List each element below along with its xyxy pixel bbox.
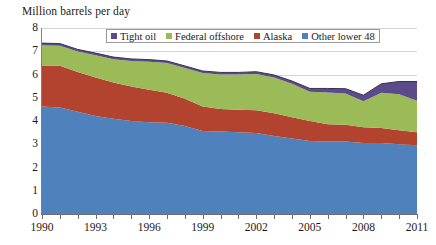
x-tick bbox=[185, 215, 186, 219]
y-tick-label: 8 bbox=[8, 22, 38, 34]
x-tick bbox=[381, 215, 382, 219]
y-tick-label: 4 bbox=[8, 115, 38, 127]
x-tick-label: 2005 bbox=[298, 221, 321, 233]
y-tick-label: 1 bbox=[8, 185, 38, 197]
legend-item[interactable]: Alaska bbox=[254, 31, 292, 42]
x-tick bbox=[78, 215, 79, 219]
x-tick bbox=[399, 215, 400, 219]
x-axis-line bbox=[41, 214, 418, 215]
x-tick bbox=[149, 215, 150, 219]
x-tick bbox=[310, 215, 311, 219]
x-tick bbox=[96, 215, 97, 219]
x-tick bbox=[292, 215, 293, 219]
legend-label: Other lower 48 bbox=[311, 31, 375, 42]
chart-legend: Tight oilFederal offshoreAlaskaOther low… bbox=[106, 29, 380, 43]
legend-item[interactable]: Federal offshore bbox=[166, 31, 244, 42]
y-tick-label: 6 bbox=[8, 69, 38, 81]
x-tick bbox=[274, 215, 275, 219]
legend-label: Tight oil bbox=[120, 31, 156, 42]
y-axis-labels: 012345678 bbox=[0, 0, 38, 245]
x-tick-label: 2011 bbox=[406, 221, 429, 233]
y-axis-line bbox=[41, 28, 42, 215]
legend-label: Federal offshore bbox=[175, 31, 244, 42]
x-tick bbox=[221, 215, 222, 219]
y-tick-label: 0 bbox=[8, 208, 38, 220]
x-tick bbox=[42, 215, 43, 219]
x-tick bbox=[417, 215, 418, 219]
y-tick-label: 3 bbox=[8, 138, 38, 150]
y-tick-label: 7 bbox=[8, 45, 38, 57]
x-tick bbox=[363, 215, 364, 219]
area-series-svg bbox=[42, 28, 417, 214]
legend-swatch-icon bbox=[302, 33, 308, 39]
x-tick-label: 1996 bbox=[138, 221, 161, 233]
legend-item[interactable]: Other lower 48 bbox=[302, 31, 375, 42]
x-tick bbox=[167, 215, 168, 219]
x-tick bbox=[60, 215, 61, 219]
plot-area bbox=[42, 28, 417, 214]
x-tick-label: 2008 bbox=[352, 221, 375, 233]
x-tick bbox=[131, 215, 132, 219]
x-tick-label: 2002 bbox=[245, 221, 268, 233]
x-tick bbox=[256, 215, 257, 219]
x-tick bbox=[238, 215, 239, 219]
y-tick-label: 5 bbox=[8, 92, 38, 104]
legend-swatch-icon bbox=[254, 33, 260, 39]
x-tick bbox=[203, 215, 204, 219]
x-tick-label: 1999 bbox=[191, 221, 214, 233]
x-tick bbox=[328, 215, 329, 219]
legend-swatch-icon bbox=[166, 33, 172, 39]
legend-swatch-icon bbox=[111, 33, 117, 39]
x-tick bbox=[113, 215, 114, 219]
legend-label: Alaska bbox=[263, 31, 292, 42]
x-tick-label: 1990 bbox=[31, 221, 54, 233]
legend-item[interactable]: Tight oil bbox=[111, 31, 156, 42]
x-tick-label: 1993 bbox=[84, 221, 107, 233]
stacked-area-chart: Million barrels per day 012345678 199019… bbox=[0, 0, 436, 245]
y-tick-label: 2 bbox=[8, 162, 38, 174]
chart-axis-title: Million barrels per day bbox=[22, 5, 130, 17]
x-tick bbox=[346, 215, 347, 219]
